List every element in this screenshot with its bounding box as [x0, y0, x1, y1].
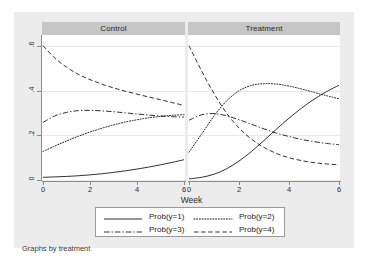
series-line	[43, 46, 184, 106]
y-axis-tick-label: .4	[28, 83, 35, 95]
legend-item: Prob(y=1)	[103, 210, 184, 223]
legend-key-line	[103, 224, 143, 236]
legend-label: Prob(y=4)	[239, 225, 274, 234]
legend-item: Prob(y=3)	[103, 223, 184, 236]
series-line	[43, 160, 184, 178]
y-axis-tick-label: .2	[28, 128, 35, 140]
y-axis-tick	[37, 180, 41, 181]
plot-area-treatment	[188, 35, 340, 180]
series-line	[189, 85, 339, 179]
y-axis-tick-label: .6	[28, 39, 35, 51]
figure-caption: Graphs by treatment	[22, 244, 90, 253]
x-axis-tick-label: 2	[232, 185, 246, 194]
legend-item: Prob(y=4)	[193, 223, 274, 236]
x-axis-tick-label: 4	[130, 185, 144, 194]
y-axis-tick-label: 0	[28, 173, 35, 185]
series-line	[43, 115, 184, 152]
legend-label: Prob(y=3)	[149, 225, 184, 234]
graph-figure: Control Treatment 0.2.4.6 02460246 Week …	[14, 12, 354, 248]
legend-item: Prob(y=2)	[193, 210, 274, 223]
x-axis-line-treatment	[188, 181, 341, 182]
legend-key-line	[193, 224, 233, 236]
x-axis-title: Week	[42, 195, 341, 205]
y-axis-tick	[37, 91, 41, 92]
x-axis-tick-label: 4	[282, 185, 296, 194]
x-axis-tick-label: 2	[83, 185, 97, 194]
x-axis-tick-label: 6	[332, 185, 346, 194]
plot-area-control	[42, 35, 185, 180]
y-axis-tick	[37, 135, 41, 136]
legend-key-line	[193, 211, 233, 223]
legend-label: Prob(y=2)	[239, 212, 274, 221]
x-axis-tick-label: 0	[36, 185, 50, 194]
legend-label: Prob(y=1)	[149, 212, 184, 221]
series-line	[189, 46, 339, 165]
panel-title-control: Control	[42, 22, 185, 35]
x-axis-line-control	[42, 181, 186, 182]
panel-title-treatment: Treatment	[188, 22, 340, 35]
y-axis-line	[41, 35, 42, 181]
legend-key-line	[103, 211, 143, 223]
chart-legend: Prob(y=1) Prob(y=2) Prob(y=3) Prob(y=4)	[95, 207, 285, 237]
x-axis-tick-label: 0	[182, 185, 196, 194]
series-line	[43, 110, 184, 122]
y-axis-tick	[37, 46, 41, 47]
